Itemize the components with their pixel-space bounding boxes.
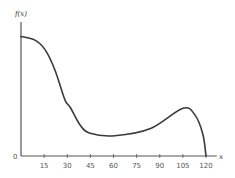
x-tick-label: 120	[199, 162, 212, 170]
x-tick-label: 75	[132, 162, 141, 170]
x-tick-label: 105	[176, 162, 189, 170]
function-curve	[21, 37, 206, 157]
x-tick-label: 90	[155, 162, 164, 170]
x-tick-label: 15	[40, 162, 49, 170]
y-axis-label: f(x)	[14, 10, 27, 18]
chart: f(x) x 0 153045607590105120	[0, 0, 235, 178]
x-tick-label: 60	[109, 162, 118, 170]
origin-label: 0	[13, 153, 17, 161]
x-tick-label: 30	[63, 162, 72, 170]
x-tick-label: 45	[86, 162, 95, 170]
x-axis-label: x	[219, 153, 223, 161]
